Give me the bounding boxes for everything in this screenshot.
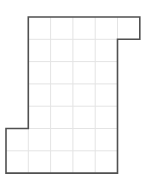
grid-polygon-diagram	[0, 0, 149, 184]
